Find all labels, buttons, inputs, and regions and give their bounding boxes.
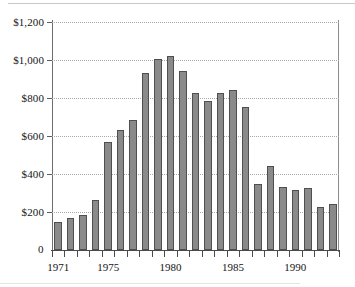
- bar-1976: [117, 130, 124, 250]
- x-tick-15: [239, 250, 240, 257]
- bar-1983: [204, 101, 211, 250]
- x-tick-5: [114, 250, 115, 257]
- bar-1975: [104, 142, 111, 250]
- y-tick-label-1200: $1,200: [13, 17, 44, 28]
- x-tick-14: [227, 250, 228, 257]
- y-tick-1000: [47, 60, 52, 61]
- x-tick-9: [164, 250, 165, 257]
- bar-1989: [279, 187, 286, 250]
- bar-1973: [79, 215, 86, 250]
- x-tick-12: [202, 250, 203, 257]
- x-tick-label-1975: 1975: [97, 261, 119, 273]
- bar-1991: [304, 188, 311, 250]
- y-tick-800: [47, 98, 52, 99]
- bar-1982: [192, 93, 199, 250]
- scan-artifact-bottom-line: [0, 283, 300, 284]
- x-tick-label-1980: 1980: [160, 261, 182, 273]
- y-tick-400: [47, 174, 52, 175]
- bar-1990: [292, 190, 299, 250]
- bar-1971: [54, 222, 61, 251]
- x-tick-16: [252, 250, 253, 257]
- scan-artifact-top-line: [8, 3, 355, 4]
- gridline-1000: [52, 60, 339, 61]
- x-tick-13: [214, 250, 215, 257]
- x-tick-23: [339, 250, 340, 257]
- x-tick-21: [314, 250, 315, 257]
- bar-1993: [329, 204, 336, 250]
- x-tick-label-1990: 1990: [284, 261, 306, 273]
- bar-1978: [142, 73, 149, 250]
- x-tick-4: [102, 250, 103, 257]
- x-tick-3: [89, 250, 90, 257]
- x-tick-22: [327, 250, 328, 257]
- y-tick-1200: [47, 22, 52, 23]
- x-axis-line: [51, 250, 340, 251]
- y-tick-label-1000: $1,000: [13, 55, 44, 66]
- bar-1985: [229, 90, 236, 250]
- x-tick-10: [177, 250, 178, 257]
- x-tick-19: [289, 250, 290, 257]
- bar-1980: [167, 56, 174, 250]
- gridline-1200: [52, 22, 339, 23]
- plot-area: $200$400$600$800$1,000$1,200 19711975198…: [52, 22, 339, 250]
- bar-1974: [92, 200, 99, 250]
- bar-1986: [242, 107, 249, 250]
- x-tick-1: [64, 250, 65, 257]
- x-tick-2: [77, 250, 78, 257]
- y-tick-label-400: $400: [22, 169, 44, 180]
- x-tick-11: [189, 250, 190, 257]
- x-tick-label-1985: 1985: [222, 261, 244, 273]
- bar-1992: [317, 207, 324, 250]
- y-tick-label-600: $600: [22, 131, 44, 142]
- bar-1984: [217, 93, 224, 250]
- bar-1972: [67, 218, 74, 250]
- y-tick-600: [47, 136, 52, 137]
- x-tick-18: [277, 250, 278, 257]
- y-tick-label-800: $800: [22, 93, 44, 104]
- x-tick-8: [152, 250, 153, 257]
- x-tick-17: [264, 250, 265, 257]
- bar-chart: $200$400$600$800$1,000$1,200 19711975198…: [0, 0, 355, 287]
- y-tick-label-200: $200: [22, 207, 44, 218]
- bar-1987: [254, 184, 261, 250]
- x-tick-20: [302, 250, 303, 257]
- x-tick-6: [127, 250, 128, 257]
- y-tick-200: [47, 212, 52, 213]
- bar-1979: [154, 59, 161, 250]
- bar-1977: [129, 120, 136, 250]
- bar-1981: [179, 71, 186, 250]
- x-tick-label-1971: 1971: [47, 261, 69, 273]
- x-tick-0: [52, 250, 53, 257]
- bar-1988: [267, 166, 274, 250]
- x-tick-7: [139, 250, 140, 257]
- y-tick-label-zero: 0: [38, 244, 44, 255]
